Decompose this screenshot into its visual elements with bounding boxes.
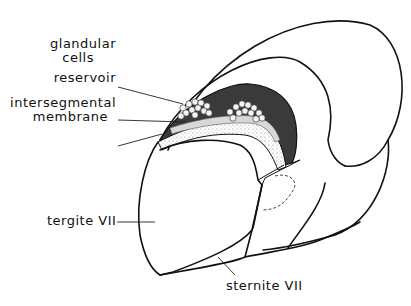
- label-intersegmental-membrane: intersegmental membrane: [10, 96, 116, 124]
- tergite-vii-outline: [139, 140, 262, 275]
- label-reservoir-text: reservoir: [54, 70, 116, 85]
- cut-edge-inner: [258, 165, 284, 180]
- leader-glandular-cells: [118, 87, 183, 104]
- label-intersegmental-line2: membrane: [10, 110, 116, 124]
- label-tergite-text: tergite VII: [47, 213, 116, 228]
- label-glandular-cells: glandular cells: [50, 37, 116, 65]
- label-reservoir: reservoir: [54, 71, 116, 85]
- label-sternite-vii: sternite VII: [226, 279, 303, 293]
- leader-sternite: [218, 257, 235, 275]
- right-fold-line: [288, 183, 325, 248]
- label-intersegmental-line1: intersegmental: [10, 96, 116, 110]
- label-glandular-line1: glandular: [50, 37, 116, 51]
- leader-intersegmental-membrane: [118, 134, 162, 146]
- hidden-contour-dashed: [262, 175, 295, 210]
- sternite-connector: [253, 185, 262, 228]
- label-sternite-text: sternite VII: [226, 278, 303, 293]
- label-tergite-vii: tergite VII: [47, 214, 116, 228]
- label-glandular-line2: cells: [50, 51, 116, 65]
- sternite-vii-outline: [160, 222, 360, 275]
